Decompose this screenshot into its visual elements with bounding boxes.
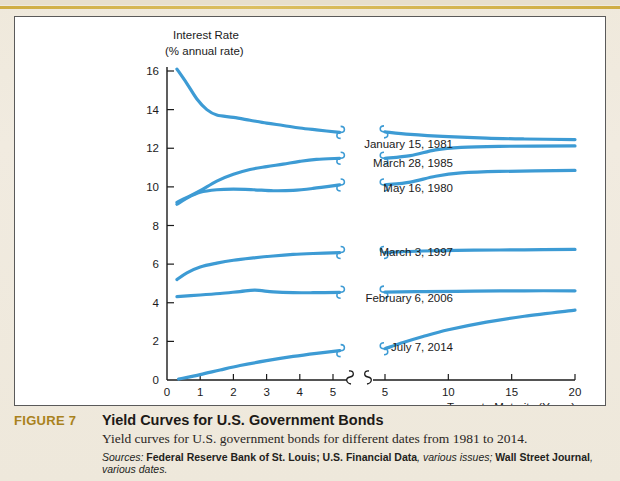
source-1-name: Federal Reserve Bank of St. Louis; U.S. … [146, 451, 417, 463]
series-february-6-2006-left-break-icon [337, 286, 345, 298]
x-tick-label-right-5: 5 [382, 386, 388, 398]
axis-break-right-icon [365, 371, 372, 384]
figure-title: Yield Curves for U.S. Government Bonds [102, 412, 383, 428]
figure-caption: FIGURE 7 Yield Curves for U.S. Governmen… [14, 412, 608, 475]
series-july-7-2014-left-break-icon [337, 345, 345, 357]
series-may-16-1980-left-break-icon [337, 179, 345, 191]
x-tick-label-left-3: 3 [263, 386, 269, 398]
axis-break-left-icon [347, 371, 354, 384]
series-march-3-1997-left-curve [177, 253, 340, 280]
y-tick-label-16: 16 [146, 65, 159, 77]
source-1-detail: , various issues; [417, 451, 492, 463]
gold-rule [0, 6, 620, 9]
series-may-16-1980-left-curve [177, 185, 340, 204]
x-axis-title: Terms to Maturity (Years) [447, 401, 575, 405]
y-tick-label-0: 0 [153, 374, 159, 386]
x-tick-label-right-10: 10 [442, 386, 455, 398]
figure-subtitle: Yield curves for U.S. government bonds f… [102, 431, 608, 447]
figure-number: FIGURE 7 [14, 413, 102, 428]
y-axis-title-line2: (% annual rate) [165, 45, 244, 57]
x-tick-label-left-0: 0 [164, 386, 170, 398]
series-label-may-16-1980: May 16, 1980 [383, 182, 453, 194]
series-label-july-7-2014: July 7, 2014 [391, 341, 454, 353]
series-january-15-1981-right-break-icon [380, 126, 388, 138]
series-february-6-2006-left-curve [177, 290, 340, 296]
series-label-march-28-1985: March 28, 1985 [373, 157, 453, 169]
series-march-28-1985-left-break-icon [337, 152, 345, 164]
figure-frame: 02468101214160123455101520Interest Rate(… [14, 16, 606, 406]
x-tick-label-left-1: 1 [197, 386, 203, 398]
y-tick-label-4: 4 [153, 297, 160, 309]
y-tick-label-2: 2 [153, 335, 159, 347]
y-tick-label-8: 8 [153, 220, 159, 232]
series-january-15-1981-left-curve [177, 69, 340, 132]
y-tick-label-10: 10 [146, 181, 159, 193]
figure-sources: Sources: Federal Reserve Bank of St. Lou… [102, 451, 608, 475]
y-tick-label-6: 6 [153, 258, 159, 270]
page-top-margin [0, 0, 620, 5]
series-january-15-1981-left-break-icon [337, 126, 345, 138]
series-label-february-6-2006: February 6, 2006 [365, 292, 453, 304]
x-tick-label-right-20: 20 [569, 386, 582, 398]
series-label-january-15-1981: January 15, 1981 [364, 138, 453, 150]
y-tick-label-12: 12 [146, 142, 159, 154]
series-march-3-1997-left-break-icon [337, 247, 345, 259]
yield-curve-chart: 02468101214160123455101520Interest Rate(… [15, 17, 607, 405]
series-march-28-1985-left-curve [177, 158, 340, 202]
source-2-name: Wall Street Journal [495, 451, 590, 463]
x-tick-label-left-5: 5 [330, 386, 336, 398]
y-axis-title-line1: Interest Rate [173, 29, 239, 41]
y-tick-label-14: 14 [146, 104, 159, 116]
x-tick-label-right-15: 15 [505, 386, 518, 398]
x-tick-label-left-4: 4 [297, 386, 304, 398]
sources-prefix: Sources: [102, 451, 143, 463]
series-july-7-2014-right-break-icon [380, 343, 388, 355]
x-tick-label-left-2: 2 [230, 386, 236, 398]
series-label-march-3-1997: March 3, 1997 [379, 246, 453, 258]
series-july-7-2014-left-curve [179, 351, 340, 379]
